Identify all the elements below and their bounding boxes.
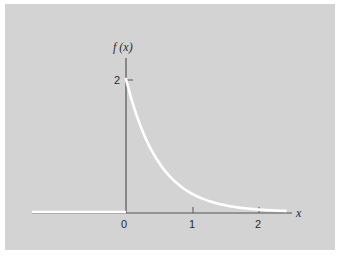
x-tick-label-2: 2 xyxy=(255,218,261,230)
x-tick-label-0: 0 xyxy=(121,218,127,230)
x-axis-label: x xyxy=(295,206,302,220)
x-tick-label-1: 1 xyxy=(189,218,195,230)
y-tick-label-2: 2 xyxy=(114,74,120,86)
chart-svg: f (x) x 0 1 2 2 xyxy=(0,0,349,260)
y-axis-label: f (x) xyxy=(113,40,133,54)
density-curve xyxy=(126,79,286,211)
